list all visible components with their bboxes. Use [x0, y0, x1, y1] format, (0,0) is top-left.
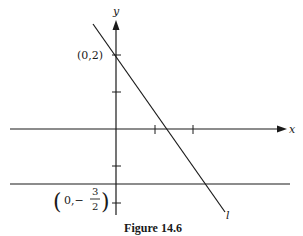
- y-axis-label: y: [112, 5, 120, 18]
- fraction-numerator: 3: [92, 186, 98, 197]
- point-label-prefix: 0,−: [64, 194, 84, 207]
- point-label-0-2: (0,2): [77, 49, 103, 62]
- figure-caption: Figure 14.6: [124, 221, 182, 235]
- figure-diagram: y x l (0,2) ( 0,− 3 2 ) Figure 14.6: [0, 0, 303, 236]
- y-axis-arrow-icon: [113, 20, 120, 30]
- line-l-label: l: [226, 209, 230, 222]
- right-paren: ): [101, 189, 110, 214]
- point-label-0-neg-three-halves: ( 0,− 3 2 ): [53, 186, 110, 214]
- fraction-denominator: 2: [92, 201, 98, 212]
- x-axis-label: x: [289, 123, 296, 136]
- x-axis-arrow-icon: [277, 126, 287, 133]
- left-paren: (: [53, 189, 62, 214]
